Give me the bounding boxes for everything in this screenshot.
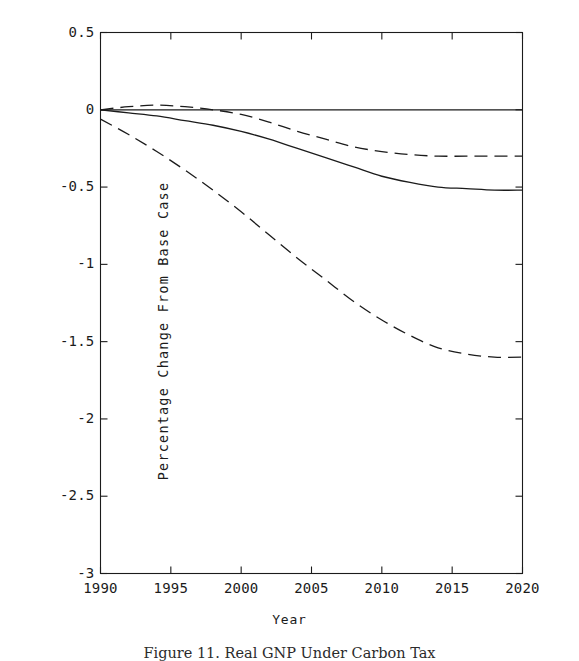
figure-root: 0.50-0.5-1-1.5-2-2.5-3 19901995200020052… bbox=[0, 0, 579, 661]
x-tick-label: 2010 bbox=[352, 580, 412, 596]
y-tick-label: -0.5 bbox=[39, 178, 95, 194]
x-axis-title: Year bbox=[0, 612, 579, 627]
x-tick-label: 1995 bbox=[141, 580, 201, 596]
x-tick-label: 2020 bbox=[493, 580, 553, 596]
y-tick-label: -2 bbox=[39, 410, 95, 426]
y-tick-label: -1.5 bbox=[39, 333, 95, 349]
series-line-middle-solid bbox=[101, 110, 523, 190]
y-tick-label: -2.5 bbox=[39, 487, 95, 503]
series-line-upper-dashed bbox=[101, 105, 523, 156]
x-tick-label: 2005 bbox=[282, 580, 342, 596]
y-tick-label: -3 bbox=[39, 565, 95, 581]
y-axis-title: Percentage Change From Base Case bbox=[155, 181, 171, 480]
chart-canvas bbox=[0, 0, 579, 661]
x-tick-label: 2015 bbox=[422, 580, 482, 596]
figure-caption: Figure 11. Real GNP Under Carbon Tax bbox=[0, 645, 579, 661]
x-tick-label: 2000 bbox=[211, 580, 271, 596]
y-tick-label: -1 bbox=[39, 255, 95, 271]
y-tick-label: 0.5 bbox=[39, 24, 95, 40]
y-tick-label: 0 bbox=[39, 101, 95, 117]
x-tick-label: 1990 bbox=[71, 580, 131, 596]
